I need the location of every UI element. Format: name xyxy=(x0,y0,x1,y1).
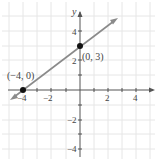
x-axis-arrow-icon xyxy=(149,88,155,93)
tick-y-4: 4 xyxy=(72,27,77,37)
tick-x-4: 4 xyxy=(133,93,138,103)
point-a-label: (−4, 0) xyxy=(7,70,34,82)
tick-y-neg4: −4 xyxy=(67,144,77,154)
tick-x-2: 2 xyxy=(105,93,110,103)
y-axis-arrow-icon xyxy=(78,11,83,17)
graph: y (−4, 0) (0, 3) −4 −2 2 4 4 2 −2 −4 xyxy=(0,0,155,159)
tick-y-neg2: −2 xyxy=(67,115,77,125)
y-axis-label: y xyxy=(71,6,77,17)
tick-x-neg4: −4 xyxy=(17,93,27,103)
point-b-label: (0, 3) xyxy=(82,51,104,63)
coordinate-plane: y (−4, 0) (0, 3) −4 −2 2 4 4 2 −2 −4 xyxy=(0,0,155,159)
tick-y-2: 2 xyxy=(72,56,77,66)
point-0-3 xyxy=(77,43,83,49)
tick-x-neg2: −2 xyxy=(43,93,53,103)
